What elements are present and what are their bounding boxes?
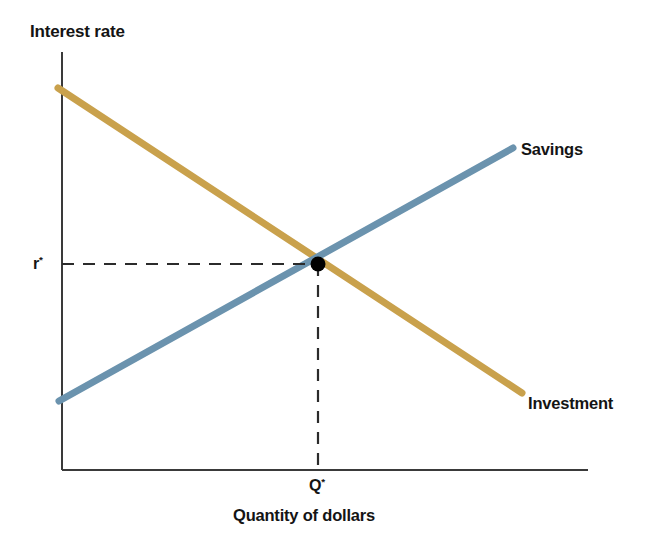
q-star-superscript: * [321,476,325,487]
q-star-base: Q [309,477,321,494]
chart-figure: Interest rate Quantity of dollars Saving… [0,0,655,534]
y-axis-title: Interest rate [30,22,125,42]
x-axis-tick-label-q-star: Q* [309,477,325,495]
investment-curve-label: Investment [528,394,613,413]
chart-canvas [0,0,655,534]
x-axis-title: Quantity of dollars [233,506,375,525]
r-star-superscript: * [39,254,43,265]
savings-curve [59,148,513,401]
savings-curve-label: Savings [521,140,583,159]
investment-curve [58,88,522,393]
y-axis-tick-label-r-star: r* [33,255,43,273]
equilibrium-point-marker [311,257,326,272]
